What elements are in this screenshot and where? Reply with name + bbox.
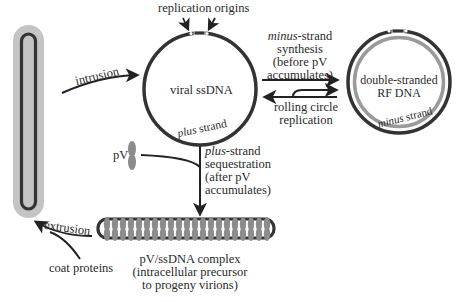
replication-origins-label: replication origins — [158, 2, 249, 15]
pv-label: pV — [113, 149, 128, 162]
pv-ssdna-complex — [98, 217, 274, 241]
pv-protein-icon — [128, 141, 136, 170]
rolling-circle-loop — [293, 90, 336, 97]
origin-pointer-left — [183, 18, 188, 29]
rolling-circle-label: rolling circle replication — [266, 101, 346, 127]
virion-rod — [13, 25, 44, 218]
plus-strand-italic: plus — [176, 123, 197, 139]
origin-pointer-right — [209, 18, 215, 29]
rolling-line2: replication — [266, 114, 346, 127]
rf-line2: RF DNA — [355, 87, 443, 100]
minus-line4: accumulates) — [262, 69, 338, 82]
minus-italic: minus — [268, 29, 298, 43]
rf-dna-label: double-stranded RF DNA — [355, 74, 443, 100]
plus-seq-line4: accumulates) — [205, 184, 271, 197]
complex-line3: to progeny virions) — [120, 279, 260, 292]
minus-synthesis-label: minus-strand synthesis (before pV accumu… — [262, 30, 338, 82]
viral-ssdna-label: viral ssDNA — [170, 84, 233, 97]
minus-rest: -strand — [298, 29, 333, 43]
phage-life-cycle-diagram: replication origins viral ssDNA plus str… — [0, 0, 459, 302]
pv-binding-line — [141, 155, 200, 167]
plus-sequestration-label: plus-strand sequestration (after pV accu… — [205, 145, 271, 197]
plus-seq-rest: -strand — [226, 144, 261, 158]
coat-proteins-label: coat proteins — [49, 262, 113, 275]
complex-label: pV/ssDNA complex (intracellular precurso… — [120, 253, 260, 292]
plus-seq-italic: plus — [205, 144, 226, 158]
